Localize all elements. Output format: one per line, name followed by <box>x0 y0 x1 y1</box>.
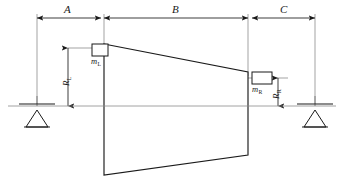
support-right-triangle <box>304 110 326 127</box>
ml-subscript: L <box>97 61 101 67</box>
rl-subscript: L <box>66 76 72 80</box>
dimension-label-rr: RR <box>272 89 281 99</box>
diagram-svg <box>0 0 343 181</box>
support-left <box>19 96 55 127</box>
mass-block-left <box>92 44 108 56</box>
dimension-label-c: C <box>280 4 287 15</box>
rl-base: R <box>61 81 71 87</box>
rr-subscript: R <box>276 89 282 93</box>
dimension-label-b: B <box>172 4 179 15</box>
diagram-canvas: A B C RL RR mL mR <box>0 0 343 181</box>
mr-subscript: R <box>258 89 262 95</box>
dimension-label-rl: RL <box>62 77 71 86</box>
mass-label-left: mL <box>91 57 101 66</box>
support-right <box>297 96 333 127</box>
dimension-label-a: A <box>64 4 71 15</box>
rr-base: R <box>271 94 281 100</box>
mass-label-right: mR <box>252 85 262 94</box>
rotor-body <box>104 44 248 175</box>
mass-block-right <box>252 72 272 84</box>
support-left-triangle <box>26 110 48 127</box>
